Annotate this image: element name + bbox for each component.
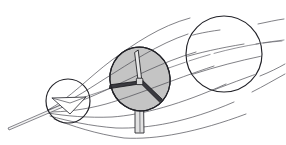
- downstream-cross-section-group: [186, 16, 262, 92]
- rotor-disk-group: [103, 18, 226, 117]
- diagram-canvas: Wind turbine actuator disk stream tube: [0, 0, 286, 145]
- streamline-exit-1: [258, 19, 284, 24]
- streamline-exit-2: [260, 64, 285, 76]
- streamline-exit-3: [252, 74, 285, 92]
- wind-turbine-streamtube-diagram: Wind turbine actuator disk stream tube: [0, 0, 286, 145]
- axis-centerline: [70, 41, 282, 102]
- downstream-cross-section-circle: [186, 16, 262, 92]
- upstream-cross-section-group: [46, 79, 90, 123]
- streamlines-exit-group: [252, 19, 285, 92]
- rotor-hub: [136, 78, 142, 84]
